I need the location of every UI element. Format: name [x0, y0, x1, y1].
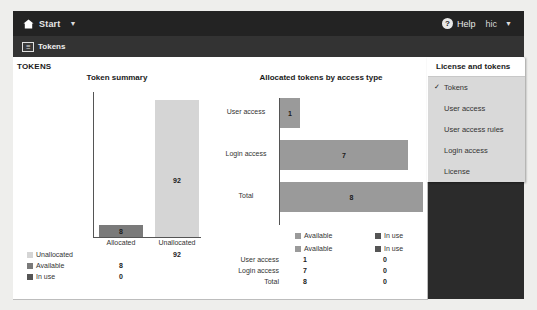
bar-user-access-value: 1 — [288, 110, 292, 117]
row-label-login-access: Login access — [217, 267, 279, 274]
cell-total-available: 8 — [285, 278, 325, 285]
cell-user-access-in-use: 0 — [365, 256, 405, 263]
legend-label-in-use: In use — [384, 232, 403, 239]
x-tick-unallocated: Unallocated — [151, 239, 203, 246]
legend-item-available[interactable]: Available — [295, 232, 332, 239]
bar-group-total: Total 8 — [217, 178, 425, 220]
content-panel: TOKENS Token summary 8 92 — [13, 57, 428, 300]
legend-swatch-in-use — [27, 274, 33, 280]
y-axis-line — [93, 92, 94, 237]
chart-token-summary: Token summary 8 92 Allocated Unallo — [19, 73, 215, 284]
app-root: Start ▼ ? Help hic ▼ ☰ Tokens — [0, 0, 537, 310]
menu-item-user-access-rules[interactable]: User access rules — [428, 119, 525, 140]
check-icon: ✓ — [434, 83, 440, 91]
menu-item-license-label: License — [444, 167, 470, 176]
license-and-tokens-menu: License and tokens ✓ Tokens User access … — [427, 57, 525, 182]
x-tick-allocated: Allocated — [97, 239, 145, 246]
bar-unallocated-value: 92 — [173, 177, 181, 184]
chart-token-summary-title: Token summary — [19, 73, 215, 82]
top-navigation-bar: Start ▼ ? Help hic ▼ — [13, 11, 524, 36]
legend-item-in-use[interactable]: In use — [27, 273, 55, 280]
bar-group-login-access: Login access 7 — [217, 136, 425, 178]
chart-allocated-legend: Available In use — [217, 232, 425, 243]
menu-header: License and tokens — [428, 57, 525, 77]
x-axis-tick-labels: Allocated Unallocated — [19, 239, 215, 250]
cell-login-access-in-use: 0 — [365, 267, 405, 274]
allocated-by-access-type-table: Available In use User access 1 0 — [217, 245, 425, 289]
cell-login-access-available: 7 — [285, 267, 325, 274]
start-menu-button[interactable]: Start ▼ — [13, 19, 76, 29]
menu-item-license[interactable]: License — [428, 161, 525, 182]
cell-available-allocated: 8 — [97, 262, 145, 269]
column-header-in-use: In use — [375, 245, 403, 252]
header-swatch-in-use — [375, 246, 381, 252]
legend-swatch-in-use — [375, 233, 381, 239]
x-axis-line — [93, 237, 201, 238]
y-tick-user-access: User access — [217, 108, 275, 115]
charts-container: Token summary 8 92 Allocated Unallo — [13, 73, 427, 299]
y-tick-login-access: Login access — [217, 150, 275, 157]
column-header-available: Available — [295, 245, 332, 252]
legend-swatch-available — [295, 233, 301, 239]
help-label: Help — [457, 19, 476, 29]
chart-allocated-plot: User access 1 Login access 7 — [217, 94, 425, 231]
column-header-available-label: Available — [304, 245, 332, 252]
cell-user-access-available: 1 — [285, 256, 325, 263]
chevron-down-icon[interactable]: ▼ — [70, 20, 77, 27]
legend-item-available[interactable]: Available — [27, 262, 64, 269]
legend-swatch-unallocated — [27, 252, 33, 258]
legend-label-available: Available — [36, 262, 64, 269]
menu-item-user-access-rules-label: User access rules — [444, 125, 504, 134]
user-label: hic — [486, 19, 498, 29]
menu-item-tokens[interactable]: ✓ Tokens — [428, 77, 525, 98]
window-chrome: Start ▼ ? Help hic ▼ ☰ Tokens — [13, 11, 524, 299]
menu-item-login-access-label: Login access — [444, 146, 488, 155]
row-label-user-access: User access — [217, 256, 279, 263]
bar-allocated-value: 8 — [119, 228, 123, 235]
chart-token-summary-plot: 8 92 — [19, 92, 215, 237]
column-header-in-use-label: In use — [384, 245, 403, 252]
question-mark-icon: ? — [442, 18, 453, 29]
token-summary-table: Unallocated 92 Available 8 — [19, 251, 215, 284]
cell-total-in-use: 0 — [365, 278, 405, 285]
menu-item-user-access[interactable]: User access — [428, 98, 525, 119]
cell-in-use-allocated: 0 — [97, 273, 145, 280]
bar-total-value: 8 — [350, 194, 354, 201]
table-row: Unallocated 92 — [19, 251, 215, 262]
legend-label-unallocated: Unallocated — [36, 251, 73, 258]
legend-label-available: Available — [304, 232, 332, 239]
tab-strip: ☰ Tokens — [13, 36, 524, 57]
card-list-icon: ☰ — [22, 42, 34, 52]
menu-item-tokens-label: Tokens — [444, 83, 468, 92]
bar-login-access-value: 7 — [342, 152, 346, 159]
bar-unallocated[interactable]: 92 — [155, 100, 199, 237]
table-row: Login access 7 0 — [217, 267, 425, 278]
legend-item-in-use[interactable]: In use — [375, 232, 403, 239]
top-bar-right-group: ? Help hic ▼ — [442, 18, 524, 29]
table-row: Total 8 0 — [217, 278, 425, 289]
chart-allocated-title: Allocated tokens by access type — [217, 73, 425, 82]
chart-allocated-by-access-type: Allocated tokens by access type User acc… — [217, 73, 425, 289]
start-label: Start — [39, 19, 61, 29]
menu-item-user-access-label: User access — [444, 104, 485, 113]
cell-unallocated-unallocated: 92 — [151, 251, 203, 258]
tab-tokens[interactable]: ☰ Tokens — [13, 36, 74, 57]
bar-allocated[interactable]: 8 — [99, 225, 143, 237]
user-menu-button[interactable]: hic ▼ — [486, 19, 512, 29]
legend-swatch-available — [27, 263, 33, 269]
help-button[interactable]: ? Help — [442, 18, 476, 29]
bar-group-user-access: User access 1 — [217, 94, 425, 136]
table-row: User access 1 0 — [217, 256, 425, 267]
header-swatch-available — [295, 246, 301, 252]
y-tick-total: Total — [217, 192, 275, 199]
table-row: In use 0 — [19, 273, 215, 284]
page-title: TOKENS — [17, 62, 51, 71]
legend-item-unallocated[interactable]: Unallocated — [27, 251, 73, 258]
bar-login-access[interactable]: 7 — [280, 140, 408, 170]
home-icon — [23, 19, 34, 29]
tab-tokens-label: Tokens — [38, 42, 65, 51]
table-header-row: Available In use — [217, 245, 425, 256]
bar-user-access[interactable]: 1 — [280, 98, 300, 128]
menu-item-login-access[interactable]: Login access — [428, 140, 525, 161]
bar-total[interactable]: 8 — [280, 182, 423, 212]
